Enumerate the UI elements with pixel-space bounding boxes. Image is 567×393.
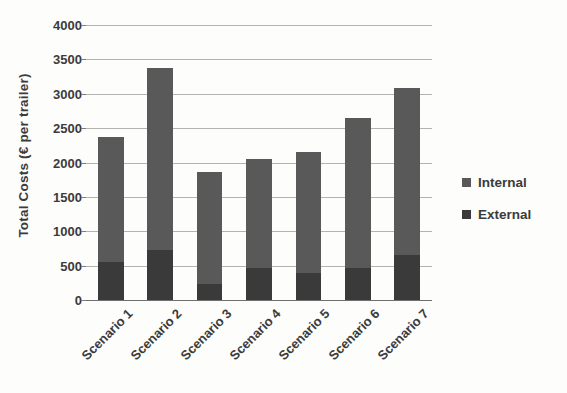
y-axis-tick-label: 1500 <box>53 189 82 204</box>
bar-segment-internal[interactable] <box>246 159 272 268</box>
bar-segment-external[interactable] <box>147 250 173 300</box>
y-axis-tick-label: 500 <box>60 258 82 273</box>
x-axis-tick-label: Scenario 7 <box>375 306 432 363</box>
y-axis-tick-label: 4000 <box>53 18 82 33</box>
x-axis-tick-label: Scenario 4 <box>226 306 283 363</box>
bar-chart: Total Costs (€ per trailer) 050010001500… <box>0 0 567 393</box>
bar-segment-external[interactable] <box>98 262 124 300</box>
bar-group[interactable] <box>246 25 272 300</box>
bar-segment-external[interactable] <box>296 273 322 301</box>
x-axis-tick-label: Scenario 3 <box>177 306 234 363</box>
bar-group[interactable] <box>98 25 124 300</box>
legend-label: External <box>478 207 531 222</box>
bars-layer <box>86 25 432 300</box>
y-axis-title-text: Total Costs (€ per trailer) <box>16 73 31 237</box>
bar-segment-internal[interactable] <box>296 152 322 273</box>
bar-segment-external[interactable] <box>345 268 371 300</box>
y-axis-tick-label: 2500 <box>53 121 82 136</box>
legend-item[interactable]: External <box>462 198 562 230</box>
bar-group[interactable] <box>394 25 420 300</box>
x-axis-tick-label: Scenario 6 <box>325 306 382 363</box>
bar-segment-internal[interactable] <box>394 88 420 254</box>
y-axis-title: Total Costs (€ per trailer) <box>6 0 40 310</box>
bar-segment-internal[interactable] <box>197 172 223 283</box>
legend-swatch-icon <box>462 210 471 219</box>
bar-segment-external[interactable] <box>246 268 272 300</box>
bar-segment-internal[interactable] <box>98 137 124 262</box>
x-axis-tick-labels: Scenario 1Scenario 2Scenario 3Scenario 4… <box>86 300 432 393</box>
y-axis-tick-label: 1000 <box>53 224 82 239</box>
plot-area <box>86 25 432 300</box>
x-axis-tick-label: Scenario 2 <box>128 306 185 363</box>
legend-swatch-icon <box>462 178 471 187</box>
y-axis-tick-labels: 05001000150020002500300035004000 <box>38 25 82 300</box>
x-axis-tick-label: Scenario 5 <box>276 306 333 363</box>
legend-label: Internal <box>478 175 527 190</box>
bar-group[interactable] <box>296 25 322 300</box>
chart-legend: InternalExternal <box>462 166 562 230</box>
bar-segment-internal[interactable] <box>345 118 371 269</box>
y-axis-tick-label: 2000 <box>53 155 82 170</box>
legend-item[interactable]: Internal <box>462 166 562 198</box>
y-axis-tick-label: 3000 <box>53 86 82 101</box>
bar-segment-external[interactable] <box>394 255 420 300</box>
bar-segment-internal[interactable] <box>147 68 173 250</box>
x-axis-tick-label: Scenario 1 <box>78 306 135 363</box>
bar-segment-external[interactable] <box>197 284 223 301</box>
y-axis-tick-label: 3500 <box>53 52 82 67</box>
bar-group[interactable] <box>147 25 173 300</box>
bar-group[interactable] <box>197 25 223 300</box>
bar-group[interactable] <box>345 25 371 300</box>
